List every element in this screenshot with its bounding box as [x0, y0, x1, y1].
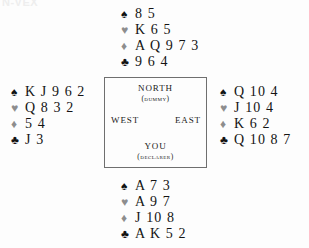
- club-icon: ♣: [121, 226, 135, 242]
- west-spades-row: ♠ K J 9 6 2: [11, 84, 85, 100]
- east-diamonds-row: ♦ K 6 2: [220, 116, 291, 132]
- club-icon: ♣: [11, 132, 25, 148]
- diamond-icon: ♦: [121, 210, 135, 226]
- east-hearts-row: ♥ J 10 4: [220, 100, 291, 116]
- club-icon: ♣: [121, 54, 135, 70]
- south-hand: ♠ A 7 3 ♥ A 9 7 ♦ J 10 8 ♣ A K 5 2: [121, 178, 187, 242]
- diamond-icon: ♦: [220, 116, 234, 132]
- east-clubs-cards: Q 10 8 7: [234, 132, 291, 148]
- north-diamonds-row: ♦ A Q 9 7 3: [121, 38, 199, 54]
- east-hearts-cards: J 10 4: [234, 100, 274, 116]
- spade-icon: ♠: [11, 84, 25, 100]
- seat-north-title: NORTH: [105, 83, 206, 94]
- bridge-deal-diagram: N-VEX ♠ 8 5 ♥ K 6 5 ♦ A Q 9 7 3 ♣ 9 6 4 …: [0, 0, 309, 248]
- spade-icon: ♠: [121, 6, 135, 22]
- diamond-icon: ♦: [121, 38, 135, 54]
- seat-label-west: WEST: [111, 115, 139, 125]
- north-clubs-cards: 9 6 4: [135, 54, 169, 70]
- north-hearts-row: ♥ K 6 5: [121, 22, 199, 38]
- south-diamonds-row: ♦ J 10 8: [121, 210, 187, 226]
- south-hearts-row: ♥ A 9 7: [121, 194, 187, 210]
- seat-label-east: EAST: [175, 115, 201, 125]
- seat-south-role: (DECLARER): [105, 152, 206, 162]
- west-spades-cards: K J 9 6 2: [25, 84, 85, 100]
- east-diamonds-cards: K 6 2: [234, 116, 271, 132]
- west-hearts-row: ♥ Q 8 3 2: [11, 100, 85, 116]
- diamond-icon: ♦: [11, 116, 25, 132]
- heart-icon: ♥: [11, 100, 25, 116]
- seat-south-title: YOU: [105, 141, 206, 152]
- west-hearts-cards: Q 8 3 2: [25, 100, 74, 116]
- seat-label-south: YOU (DECLARER): [105, 141, 206, 162]
- north-clubs-row: ♣ 9 6 4: [121, 54, 199, 70]
- south-spades-row: ♠ A 7 3: [121, 178, 187, 194]
- spade-icon: ♠: [121, 178, 135, 194]
- heart-icon: ♥: [121, 194, 135, 210]
- north-hearts-cards: K 6 5: [135, 22, 172, 38]
- west-hand: ♠ K J 9 6 2 ♥ Q 8 3 2 ♦ 5 4 ♣ J 3: [11, 84, 85, 148]
- compass-box: NORTH (DUMMY) WEST EAST YOU (DECLARER): [104, 77, 207, 168]
- east-hand: ♠ Q 10 4 ♥ J 10 4 ♦ K 6 2 ♣ Q 10 8 7: [220, 84, 291, 148]
- west-diamonds-cards: 5 4: [25, 116, 46, 132]
- west-clubs-cards: J 3: [25, 132, 44, 148]
- east-spades-row: ♠ Q 10 4: [220, 84, 291, 100]
- club-icon: ♣: [220, 132, 234, 148]
- east-spades-cards: Q 10 4: [234, 84, 279, 100]
- north-diamonds-cards: A Q 9 7 3: [135, 38, 199, 54]
- west-clubs-row: ♣ J 3: [11, 132, 85, 148]
- cropped-header-artifact: N-VEX: [2, 0, 38, 8]
- seat-north-role: (DUMMY): [105, 94, 206, 104]
- south-clubs-cards: A K 5 2: [135, 226, 187, 242]
- heart-icon: ♥: [220, 100, 234, 116]
- south-spades-cards: A 7 3: [135, 178, 171, 194]
- seat-label-north: NORTH (DUMMY): [105, 83, 206, 104]
- south-hearts-cards: A 9 7: [135, 194, 171, 210]
- south-diamonds-cards: J 10 8: [135, 210, 175, 226]
- west-diamonds-row: ♦ 5 4: [11, 116, 85, 132]
- south-clubs-row: ♣ A K 5 2: [121, 226, 187, 242]
- north-spades-cards: 8 5: [135, 6, 156, 22]
- north-spades-row: ♠ 8 5: [121, 6, 199, 22]
- heart-icon: ♥: [121, 22, 135, 38]
- spade-icon: ♠: [220, 84, 234, 100]
- north-hand: ♠ 8 5 ♥ K 6 5 ♦ A Q 9 7 3 ♣ 9 6 4: [121, 6, 199, 70]
- east-clubs-row: ♣ Q 10 8 7: [220, 132, 291, 148]
